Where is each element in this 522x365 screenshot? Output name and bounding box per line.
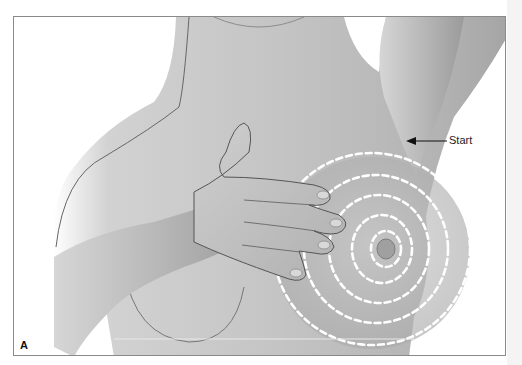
fingernail-4	[290, 269, 302, 277]
fingernail-1	[317, 191, 329, 199]
panel-label: A	[20, 339, 28, 351]
illustration-frame	[13, 16, 506, 356]
page-margin-strip	[507, 0, 522, 365]
fingernail-3	[318, 241, 330, 249]
right-nipple	[377, 239, 395, 259]
start-label: Start	[449, 134, 472, 146]
fingernail-2	[330, 219, 342, 227]
breast-exam-illustration	[14, 17, 506, 356]
